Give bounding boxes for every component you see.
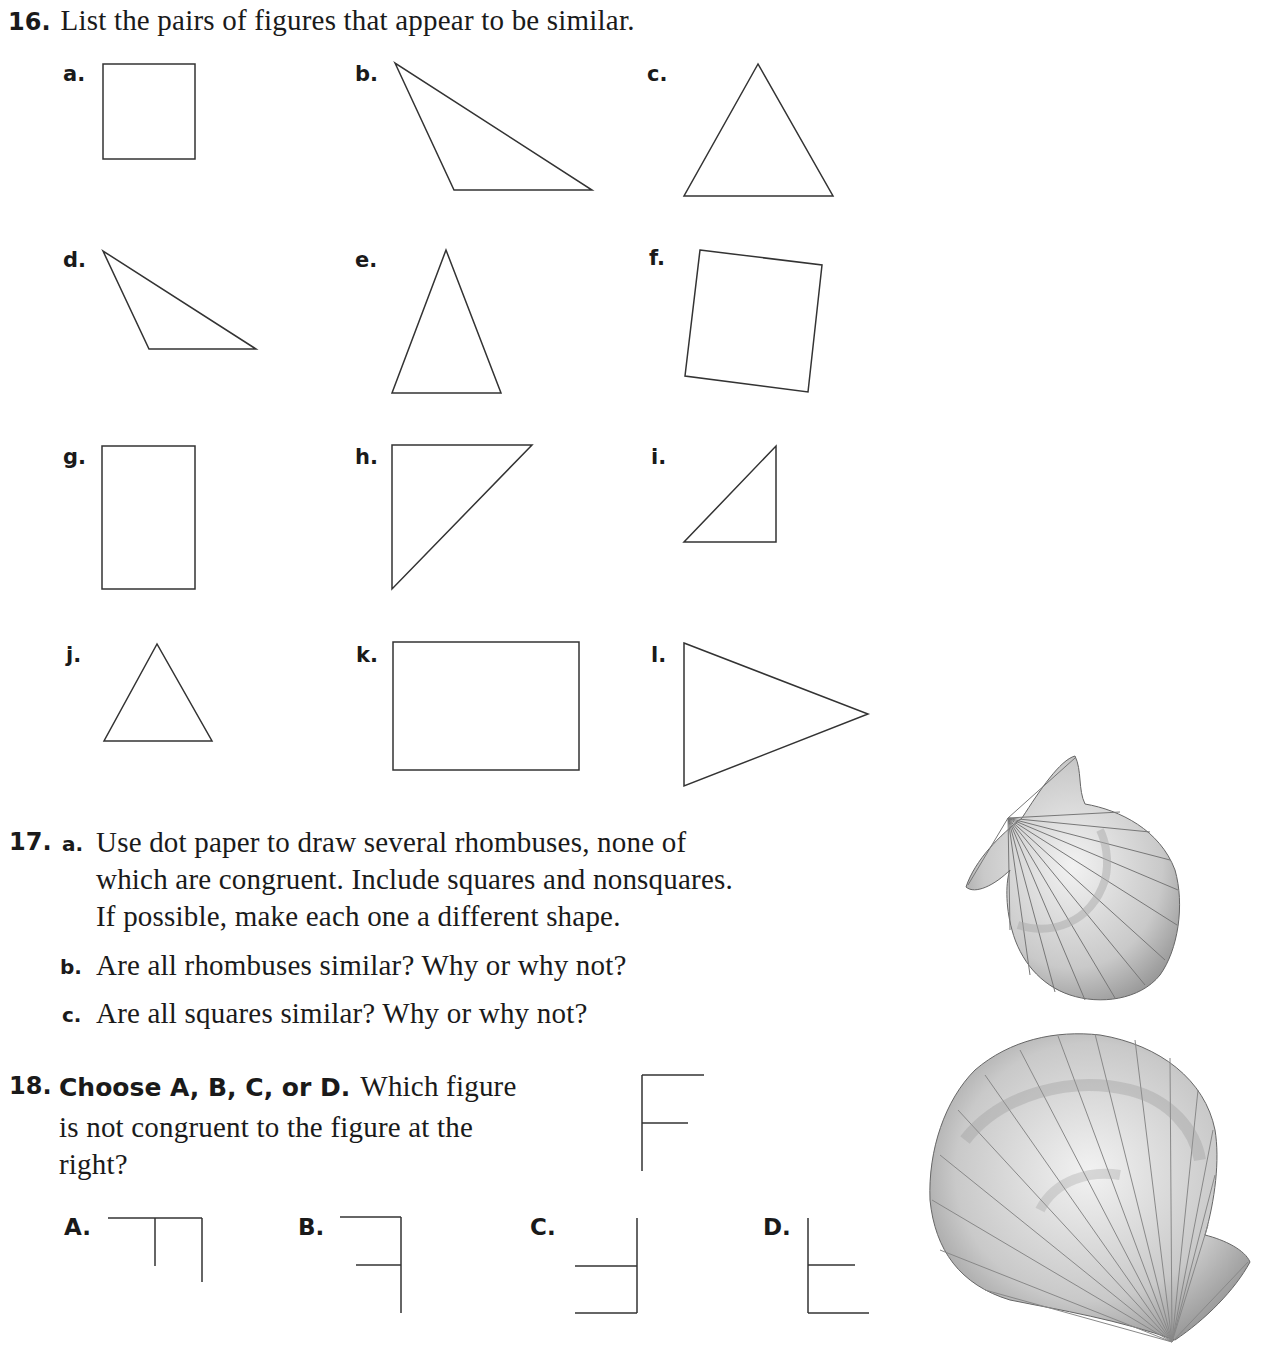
- question-number: 17.: [9, 828, 52, 856]
- choice-c-option[interactable]: C.: [530, 1214, 556, 1240]
- figure-h-triangle: [392, 445, 532, 589]
- figure-l-triangle: [684, 643, 868, 786]
- choice-c-figure: [575, 1218, 637, 1313]
- question-18-text: Choose A, B, C, or D. Which figure is no…: [59, 1068, 517, 1183]
- figure-f-quadrilateral: [685, 250, 822, 392]
- part-c-text: Are all squares similar? Why or why not?: [96, 995, 587, 1032]
- figure-e-triangle: [392, 250, 501, 393]
- scallop-shell-small-icon: [966, 756, 1180, 1000]
- part-label-c: c.: [62, 1003, 81, 1027]
- part-label-b: b.: [60, 955, 82, 979]
- figure-j-triangle: [104, 644, 212, 741]
- scallop-shell-large-icon: [930, 1034, 1250, 1342]
- choice-d-option[interactable]: D.: [763, 1214, 791, 1240]
- choice-a-option[interactable]: A.: [64, 1214, 91, 1240]
- figure-b-triangle: [395, 63, 592, 190]
- part-b-text: Are all rhombuses similar? Why or why no…: [96, 947, 627, 984]
- part-a-text: Use dot paper to draw several rhombuses,…: [96, 824, 733, 935]
- part-label-a: a.: [62, 832, 83, 856]
- figure-g-rectangle: [102, 446, 195, 589]
- question-number: 18.: [9, 1072, 52, 1100]
- choice-a-figure: [108, 1218, 202, 1282]
- figure-c-triangle: [684, 64, 833, 196]
- figure-k-rectangle: [393, 642, 579, 770]
- figure-a-rectangle: [103, 64, 195, 159]
- figure-d-triangle: [103, 251, 256, 349]
- choice-b-figure: [340, 1217, 401, 1313]
- choice-b-option[interactable]: B.: [298, 1214, 324, 1240]
- figure-i-triangle: [684, 446, 776, 542]
- choice-d-figure: [808, 1218, 869, 1313]
- question-instruction: Choose A, B, C, or D.: [59, 1073, 350, 1102]
- reference-f-figure: [642, 1075, 704, 1171]
